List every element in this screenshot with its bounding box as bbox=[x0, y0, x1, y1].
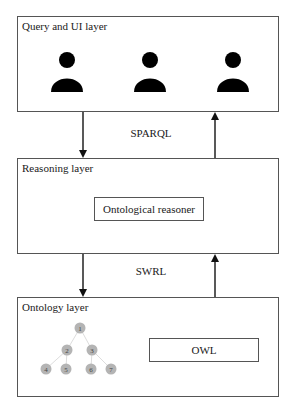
tree-node: 2 bbox=[62, 345, 73, 356]
tree-node: 1 bbox=[75, 323, 86, 334]
tree-node: 6 bbox=[86, 364, 97, 375]
sparql-label: SPARQL bbox=[130, 127, 171, 139]
ontology-layer: Ontology layer 1 2 3 4 5 6 7 OWL bbox=[17, 297, 279, 397]
owl-box: OWL bbox=[149, 338, 259, 362]
layer-title: Reasoning layer bbox=[22, 162, 93, 174]
tree-node: 3 bbox=[87, 345, 98, 356]
swrl-label: SWRL bbox=[136, 265, 167, 277]
reasoning-layer: Reasoning layer Ontological reasoner bbox=[17, 158, 279, 254]
ontological-reasoner-box: Ontological reasoner bbox=[94, 197, 204, 221]
tree-node: 4 bbox=[41, 364, 52, 375]
tree-node: 7 bbox=[106, 364, 117, 375]
tree-node: 5 bbox=[61, 364, 72, 375]
